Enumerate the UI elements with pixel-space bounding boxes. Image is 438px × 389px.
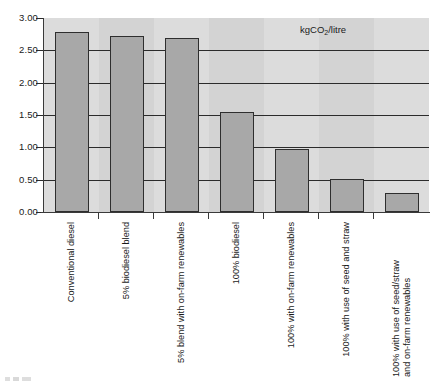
x-category-label-2: 5% biodiesel blend xyxy=(121,222,132,299)
x-category-label-6: 100% with use of seed and straw xyxy=(341,222,352,357)
bar-100pct-seed-and-straw xyxy=(330,179,364,212)
x-category-label-3: 5% blend with on-farm renewables xyxy=(176,222,187,363)
unit-subscript: 2 xyxy=(324,29,328,36)
y-tick-label-5: 2.50 xyxy=(4,46,38,56)
unit-annotation: kgCO2/litre xyxy=(300,24,346,35)
scan-artifact xyxy=(5,377,31,381)
y-axis-labels: 0.00 0.50 1.00 1.50 2.00 2.50 3.00 xyxy=(0,0,38,389)
plot-area xyxy=(43,18,429,212)
bar-100pct-on-farm-renewables xyxy=(275,149,309,212)
x-tick-mark-1 xyxy=(98,212,99,219)
bar-chart: 0.00 0.50 1.00 1.50 2.00 2.50 3.00 xyxy=(0,0,438,389)
gridline-2.50 xyxy=(44,50,429,51)
x-tick-mark-3 xyxy=(208,212,209,219)
y-tick-label-4: 2.00 xyxy=(4,78,38,88)
x-category-label-5: 100% with on-farm renewables xyxy=(286,222,297,348)
unit-suffix: /litre xyxy=(328,24,346,35)
x-tick-mark-2 xyxy=(153,212,154,219)
x-axis-line xyxy=(41,212,430,213)
x-tick-mark-5 xyxy=(318,212,319,219)
y-tick-label-3: 1.50 xyxy=(4,110,38,120)
x-category-label-7-line-1: 100% with use of seed/straw xyxy=(391,222,402,377)
x-tick-mark-4 xyxy=(263,212,264,219)
y-tick-label-0: 0.00 xyxy=(4,207,38,217)
y-tick-label-6: 3.00 xyxy=(4,13,38,23)
y-tick-label-1: 0.50 xyxy=(4,175,38,185)
x-category-label-7-line-2: and on-farm renewables xyxy=(402,222,413,377)
bar-100pct-biodiesel xyxy=(220,112,254,212)
x-category-label-4: 100% biodiesel xyxy=(231,222,242,284)
x-tick-mark-6 xyxy=(373,212,374,219)
bar-5pct-biodiesel-blend xyxy=(110,36,144,212)
bar-100pct-seed-straw-and-on-farm-renewables xyxy=(385,193,419,212)
y-tick-label-2: 1.00 xyxy=(4,143,38,153)
bar-conventional-diesel xyxy=(55,32,89,212)
unit-prefix: kgCO xyxy=(300,24,324,35)
x-category-label-1: Conventional diesel xyxy=(66,222,77,302)
x-category-label-7: 100% with use of seed/straw and on-farm … xyxy=(391,222,413,377)
gridline-2.00 xyxy=(44,83,429,84)
bar-5pct-blend-on-farm-renewables xyxy=(165,38,199,212)
